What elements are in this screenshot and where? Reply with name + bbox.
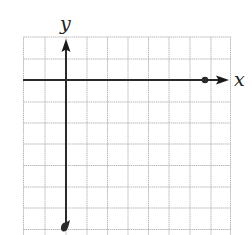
x-axis: [23, 76, 229, 85]
x-axis-label: x: [234, 68, 245, 90]
coordinate-graph: y x: [0, 0, 252, 235]
y-axis-label: y: [59, 12, 71, 34]
x-axis-endpoint-dot: [202, 77, 209, 84]
y-axis: [61, 39, 71, 232]
grid-lines: [24, 37, 231, 235]
